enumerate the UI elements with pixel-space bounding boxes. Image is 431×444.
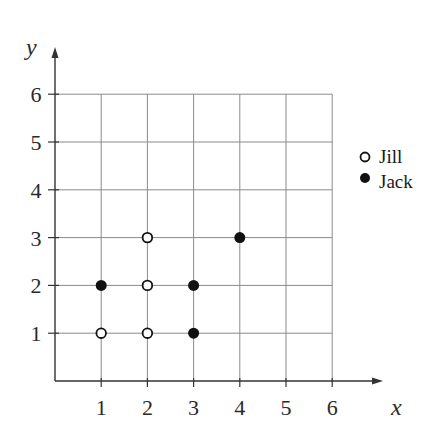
filled-circle-marker [188,280,199,291]
scatter-chart: 123456123456 x y Jill Jack [0,0,431,444]
y-tick-label: 3 [31,226,42,251]
x-axis-label: x [390,394,402,420]
filled-circle-marker [96,280,107,291]
open-circle-marker [96,328,106,338]
open-circle-marker [143,233,153,243]
x-tick-label: 3 [188,395,199,420]
y-tick-label: 5 [31,130,42,155]
legend-label-jill: Jill [379,146,402,167]
legend-label-jack: Jack [379,171,413,192]
x-axis-arrow-icon [372,378,383,385]
filled-circle-marker [188,328,199,339]
x-tick-label: 4 [234,395,245,420]
y-tick-label: 6 [31,82,42,107]
filled-circle-marker [234,232,245,243]
open-circle-marker [143,328,153,338]
x-tick-label: 1 [96,395,107,420]
x-tick-label: 2 [142,395,153,420]
y-axis-arrow-icon [52,47,59,58]
x-tick-label: 5 [281,395,292,420]
legend: Jill Jack [360,146,413,192]
y-tick-label: 1 [31,321,42,346]
tick-labels: 123456123456 [31,82,338,420]
legend-open-circle-icon [361,153,370,162]
open-circle-marker [143,281,153,291]
y-tick-label: 4 [31,178,42,203]
y-tick-label: 2 [31,273,42,298]
legend-filled-circle-icon [360,173,370,183]
y-axis-label: y [24,34,37,60]
x-tick-label: 6 [327,395,338,420]
